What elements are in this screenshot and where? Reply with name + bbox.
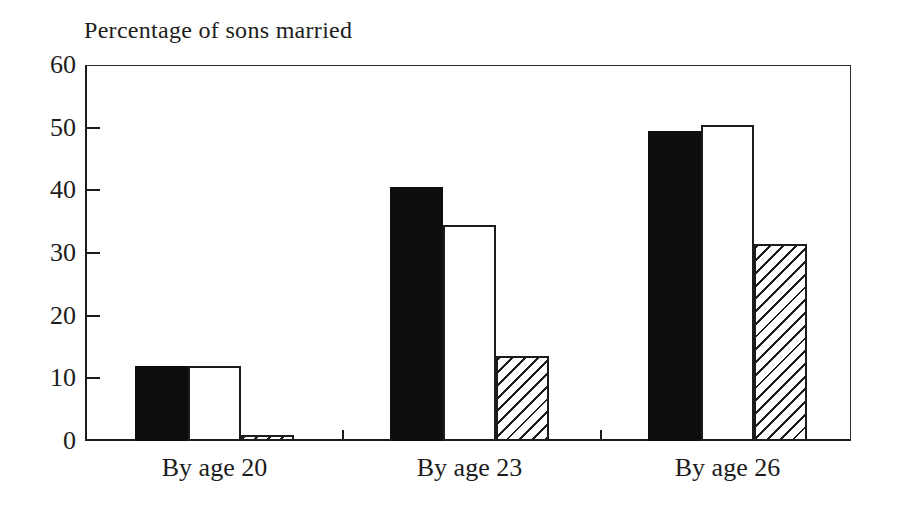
x-axis-label: By age 20 <box>105 452 325 484</box>
bar-by-age-20-diagonal-hatched <box>241 435 294 441</box>
y-axis-label: 30 <box>16 237 76 269</box>
y-axis-tick <box>87 252 100 254</box>
y-axis-label: 40 <box>16 174 76 206</box>
y-axis-tick <box>87 127 100 129</box>
bar-by-age-23-white-outlined <box>443 225 496 441</box>
x-axis-tick <box>600 430 602 440</box>
x-axis-label: By age 26 <box>618 452 838 484</box>
x-axis-tick <box>342 430 344 440</box>
bar-chart-figure: Percentage of sons married 0102030405060… <box>0 0 897 513</box>
bar-by-age-20-black-solid <box>135 366 188 441</box>
y-axis-tick <box>87 315 100 317</box>
bar-by-age-26-black-solid <box>648 131 701 441</box>
bar-by-age-23-black-solid <box>390 187 443 441</box>
bar-by-age-23-diagonal-hatched <box>496 356 549 441</box>
y-axis-label: 50 <box>16 112 76 144</box>
y-axis-label: 60 <box>16 49 76 81</box>
bar-by-age-26-diagonal-hatched <box>754 244 807 441</box>
chart-title: Percentage of sons married <box>84 17 352 44</box>
bar-by-age-26-white-outlined <box>701 125 754 441</box>
y-axis-label: 20 <box>16 300 76 332</box>
y-axis-tick <box>87 189 100 191</box>
bar-by-age-20-white-outlined <box>188 366 241 441</box>
y-axis-label: 0 <box>16 425 76 457</box>
x-axis-label: By age 23 <box>360 452 580 484</box>
y-axis-label: 10 <box>16 362 76 394</box>
y-axis-tick <box>87 377 100 379</box>
